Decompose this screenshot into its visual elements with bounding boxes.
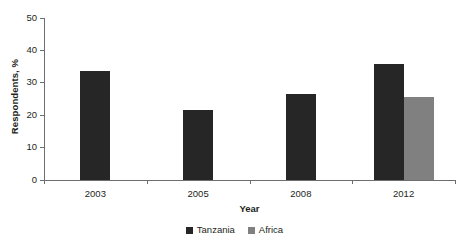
legend-item-africa[interactable]: Africa [248,224,283,236]
x-axis-label: 2003 [44,188,147,200]
bar-tanzania-2008 [286,94,316,181]
bar-tanzania-2005 [183,110,213,180]
x-axis-tick [250,180,251,184]
chart-legend: TanzaniaAfrica [0,224,469,236]
y-tick-label: 40 [26,44,37,56]
legend-item-tanzania[interactable]: Tanzania [186,224,235,236]
y-tick-label: 20 [26,109,37,121]
bar-africa-2012 [404,97,434,180]
bar-tanzania-2012 [374,64,404,180]
x-axis-tick [455,180,456,184]
legend-swatch-icon [248,227,255,234]
x-axis-label: 2005 [147,188,250,200]
x-axis-tick [44,180,45,184]
legend-label: Africa [259,224,283,236]
x-axis-label: 2012 [352,188,455,200]
x-axis-label: 2008 [250,188,353,200]
x-axis-tick [147,180,148,184]
x-axis-title: Year [44,203,455,214]
y-tick-label: 10 [26,141,37,153]
y-tick-label: 0 [32,174,37,186]
legend-label: Tanzania [197,224,235,236]
y-tick-label: 50 [26,12,37,24]
x-axis-tick [352,180,353,184]
bar-chart: Respondents, % 01020304050 2003200520082… [0,0,469,245]
bar-tanzania-2003 [80,71,110,180]
y-tick-label: 30 [26,76,37,88]
legend-swatch-icon [186,227,193,234]
y-axis-title: Respondents, % [9,32,20,162]
plot-area [44,18,455,180]
